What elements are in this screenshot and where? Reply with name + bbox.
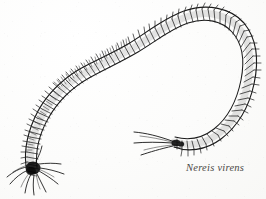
illustration-plate: Nereis virens xyxy=(0,0,266,199)
species-caption: Nereis virens xyxy=(186,162,244,173)
